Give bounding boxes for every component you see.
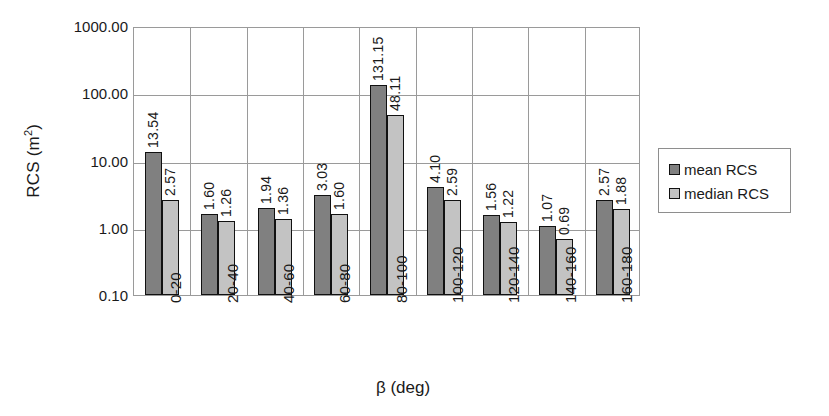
bar-value-label: 131.15 (371, 37, 385, 82)
bar-value-label: 1.56 (484, 182, 498, 210)
x-axis-tick-label: 20-40 (225, 264, 240, 303)
legend-swatch-mean-icon (669, 164, 680, 175)
bar-chart: RCS (m2) 1000.00100.0010.001.000.10 13.5… (0, 0, 829, 416)
bar-mean[interactable] (145, 152, 162, 295)
y-axis-tick-label: 10.00 (42, 154, 128, 169)
bar-value-label: 3.03 (315, 163, 329, 191)
bar-value-label: 13.54 (146, 111, 160, 148)
bar-mean[interactable] (201, 214, 218, 295)
y-axis-tick-labels: 1000.00100.0010.001.000.10 (40, 0, 128, 416)
bar-mean[interactable] (596, 200, 613, 295)
bar-value-label: 1.60 (332, 182, 346, 210)
chart-legend: mean RCSmedian RCS (658, 148, 791, 213)
bar-group: 1.601.26 (190, 28, 246, 295)
x-axis-tick-label: 0-20 (168, 272, 183, 303)
bar-value-label: 1.07 (540, 193, 554, 221)
y-axis-tick-label: 1000.00 (42, 19, 128, 34)
bar-group: 1.941.36 (247, 28, 303, 295)
y-axis-tick-label: 1.00 (42, 221, 128, 236)
bar-group: 13.542.57 (134, 28, 190, 295)
bar-value-label: 1.60 (202, 182, 216, 210)
y-axis-title-exponent: 2 (22, 130, 34, 136)
bar-value-label: 0.69 (557, 206, 571, 234)
bar-value-label: 4.10 (428, 154, 442, 182)
x-axis-tick-label: 40-60 (281, 264, 296, 303)
y-axis-tick-label: 0.10 (42, 288, 128, 303)
bar-value-label: 1.94 (259, 176, 273, 204)
x-axis-tick-label: 100-120 (450, 247, 465, 303)
bar-value-label: 2.59 (445, 168, 459, 196)
y-axis-tick-label: 100.00 (42, 86, 128, 101)
legend-item[interactable]: mean RCS (669, 162, 782, 177)
legend-label: median RCS (684, 186, 769, 201)
x-axis-title: β (deg) (333, 378, 473, 398)
bar-value-label: 1.26 (219, 189, 233, 217)
x-axis-tick-label: 80-100 (394, 255, 409, 303)
bar-mean[interactable] (370, 85, 387, 295)
x-axis-tick-label: 60-80 (337, 264, 352, 303)
x-axis-tick-label: 140-160 (563, 247, 578, 303)
bar-value-label: 1.22 (501, 190, 515, 218)
bar-value-label: 2.57 (597, 168, 611, 196)
x-axis-tick-label: 120-140 (506, 247, 521, 303)
bar-value-label: 48.11 (388, 75, 402, 111)
bar-mean[interactable] (483, 215, 500, 295)
bar-value-label: 1.88 (614, 177, 628, 205)
legend-swatch-median-icon (669, 188, 680, 199)
bar-mean[interactable] (539, 226, 556, 295)
bar-mean[interactable] (258, 208, 275, 295)
legend-label: mean RCS (684, 162, 757, 177)
bar-group: 3.031.60 (303, 28, 359, 295)
bar-value-label: 1.36 (276, 186, 290, 214)
bar-mean[interactable] (314, 195, 331, 295)
x-axis-tick-labels: 0-2020-4040-6060-8080-100100-120120-1401… (133, 297, 640, 387)
bar-value-label: 2.57 (163, 168, 177, 196)
legend-item[interactable]: median RCS (669, 186, 782, 201)
x-axis-tick-label: 160-180 (619, 247, 634, 303)
bar-mean[interactable] (427, 187, 444, 295)
